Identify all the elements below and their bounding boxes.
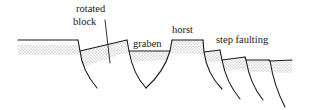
step-fault-1 xyxy=(203,40,222,89)
label-rotated: rotated xyxy=(76,3,106,14)
label-block: block xyxy=(73,16,97,27)
label-step-faulting: step faulting xyxy=(216,34,269,45)
step-fault-2 xyxy=(220,50,240,99)
fault-diagram: rotated block graben horst step faulting xyxy=(0,0,312,110)
label-graben: graben xyxy=(133,38,162,49)
label-horst: horst xyxy=(172,24,193,35)
